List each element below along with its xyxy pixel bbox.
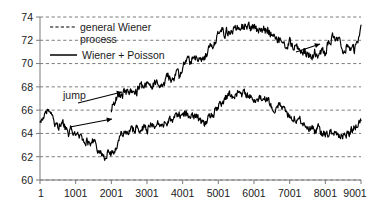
y-tick-label-64: 64: [21, 127, 33, 139]
x-tick-label-4001: 4001: [171, 187, 195, 199]
x-tick-label-1: 1: [38, 187, 44, 199]
annotation-arrow-jump-right-head: [314, 43, 320, 48]
legend-label-general-wiener-line2: process: [80, 33, 117, 45]
annotation-arrow-jump-lower-shaft: [70, 119, 112, 127]
annotation-arrow-jump-lower-head: [106, 117, 112, 122]
y-tick-label-60: 60: [21, 174, 33, 186]
x-tick-label-7001: 7001: [278, 187, 302, 199]
y-tick-label-70: 70: [21, 57, 33, 69]
legend-label-general-wiener-line1: general Wiener: [80, 21, 152, 33]
y-tick-label-72: 72: [21, 34, 33, 46]
y-tick-label-62: 62: [21, 151, 33, 163]
annotation-label-jump: jump: [62, 89, 86, 101]
line-chart: 6062646668707274 11001200130014001500160…: [0, 0, 369, 208]
x-tick-label-8001: 8001: [314, 187, 338, 199]
x-tick-label-9001: 9001: [343, 187, 367, 199]
x-axis-tick-labels: 1100120013001400150016001700180019001: [38, 187, 367, 199]
series-path-wiener-plus-poisson: [111, 22, 361, 112]
y-tick-label-68: 68: [21, 81, 33, 93]
y-tick-label-74: 74: [21, 11, 33, 23]
series-path-general-wiener-process: [40, 89, 361, 160]
x-tick-label-6001: 6001: [242, 187, 266, 199]
legend-label-wiener-poisson: Wiener + Poisson: [82, 49, 165, 61]
x-tick-label-5001: 5001: [207, 187, 231, 199]
chart-container: 6062646668707274 11001200130014001500160…: [0, 0, 369, 208]
y-tick-label-66: 66: [21, 104, 33, 116]
x-tick-label-2001: 2001: [100, 187, 124, 199]
x-tick-label-1001: 1001: [64, 187, 88, 199]
y-axis-tick-labels: 6062646668707274: [21, 11, 33, 186]
x-tick-label-3001: 3001: [135, 187, 159, 199]
